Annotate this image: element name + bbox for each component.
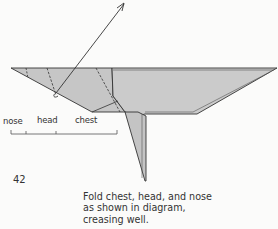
caption: Fold chest, head, and nose as shown in d…: [83, 191, 212, 225]
measurement-bracket: [11, 130, 117, 134]
caption-line-3: creasing well.: [83, 214, 212, 225]
label-nose: nose: [3, 116, 22, 126]
label-chest: chest: [75, 115, 97, 125]
spike-flap: [125, 112, 146, 181]
label-head: head: [37, 115, 57, 125]
arrow-head-icon: [117, 3, 124, 11]
step-number: 42: [13, 174, 26, 185]
caption-line-1: Fold chest, head, and nose: [83, 191, 212, 202]
body-right-flap: [112, 68, 277, 116]
caption-line-2: as shown in diagram,: [83, 202, 212, 213]
